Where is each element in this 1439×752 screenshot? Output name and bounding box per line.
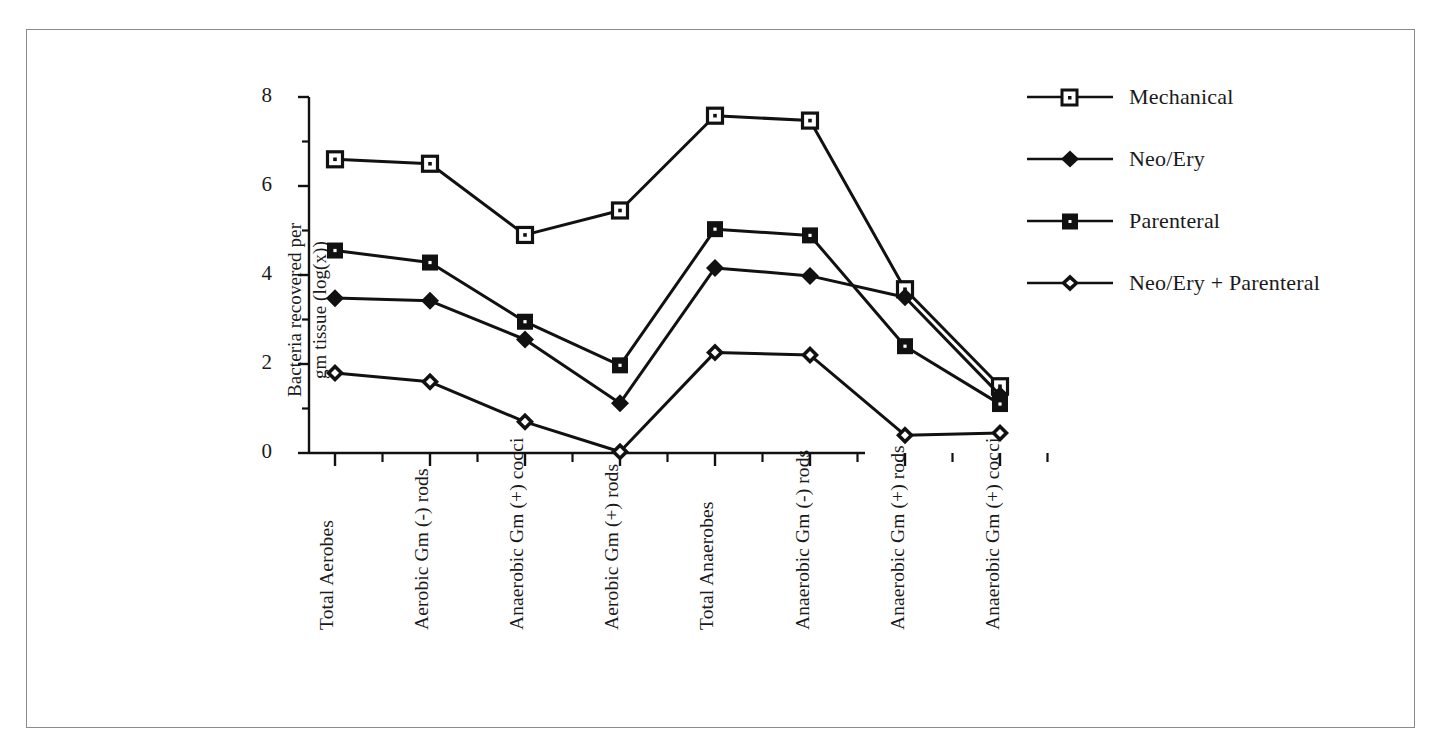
data-point-marker-core — [903, 345, 906, 348]
series-neo-ery-parenteral — [326, 343, 1009, 460]
data-point-marker — [326, 289, 344, 307]
data-point-marker-core — [808, 234, 811, 237]
data-point-marker-core — [333, 249, 336, 252]
data-point-marker-core — [713, 114, 717, 118]
figure-frame: Bacteria recovered per gm tissue (log(x)… — [26, 29, 1415, 728]
data-point-marker — [706, 259, 724, 277]
data-point-marker — [516, 331, 534, 349]
data-point-marker-core — [713, 228, 716, 231]
data-point-marker — [611, 394, 629, 412]
data-point-marker-core — [523, 320, 526, 323]
data-point-marker-core — [523, 233, 527, 237]
data-point-marker-core — [428, 261, 431, 264]
data-point-marker-core — [998, 402, 1001, 405]
data-point-marker-core — [333, 158, 337, 162]
data-point-marker-core — [428, 162, 432, 166]
data-point-marker — [421, 292, 439, 310]
data-point-marker-core — [618, 209, 622, 213]
data-point-marker — [801, 267, 819, 285]
data-point-marker-core — [618, 364, 621, 367]
plot-area — [27, 30, 1416, 729]
data-point-marker-core — [808, 119, 812, 123]
figure-page: Bacteria recovered per gm tissue (log(x)… — [0, 0, 1439, 752]
